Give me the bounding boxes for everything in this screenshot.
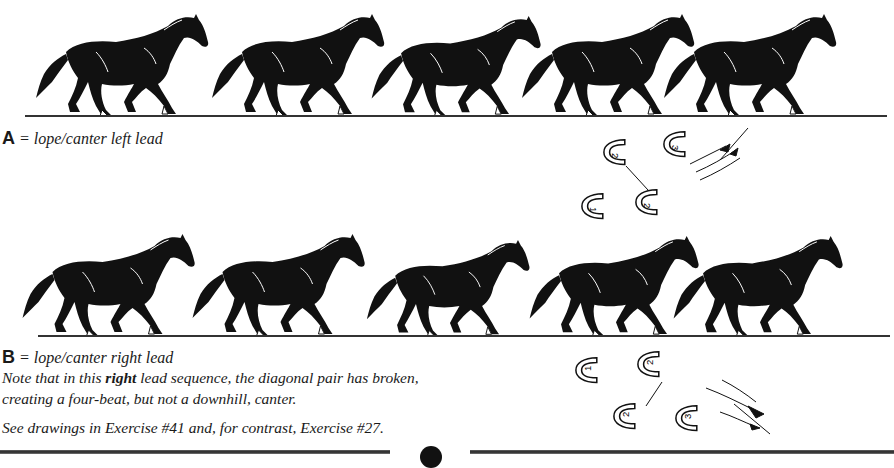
horseshoe-icon: 3 (676, 406, 697, 431)
svg-text:3: 3 (682, 414, 693, 419)
horse-sequence-a (0, 8, 894, 118)
horse-figure-a1 (36, 12, 211, 120)
bottom-rule-left (0, 450, 390, 454)
caption-a: A = lope/canter left lead (2, 128, 163, 149)
horse-figure-a2 (212, 12, 387, 120)
caption-b: B = lope/canter right lead (2, 347, 173, 368)
horseshoe-icon: 2 (604, 140, 625, 165)
svg-text:3: 3 (670, 145, 681, 150)
svg-text:2: 2 (620, 412, 631, 417)
svg-text:1: 1 (588, 207, 599, 212)
svg-text:2: 2 (610, 153, 621, 158)
ground-line-a (25, 115, 887, 117)
hoof-diagram-a: 2 3 1 2 (570, 124, 770, 224)
horseshoe-icon: 2 (638, 352, 659, 377)
horseshoe-icon: 2 (636, 190, 657, 215)
svg-text:1: 1 (582, 366, 593, 371)
caption-b-text: lope/canter right lead (34, 349, 174, 366)
svg-text:2: 2 (644, 360, 655, 365)
see-also-text: See drawings in Exercise #41 and, for co… (2, 417, 384, 438)
hoof-diagram-b: 1 2 2 3 (570, 348, 800, 448)
note-paragraph: Note that in this right lead sequence, t… (2, 367, 419, 409)
horse-figure-b2 (190, 232, 370, 340)
horseshoe-icon: 3 (664, 132, 685, 157)
caption-a-text: lope/canter left lead (34, 130, 163, 147)
horse-figure-b3 (362, 238, 537, 340)
label-letter-a: A (2, 128, 15, 148)
horseshoe-icon: 2 (614, 404, 635, 429)
bottom-rule-right (470, 450, 894, 454)
horse-sequence-b (0, 228, 894, 338)
horse-figure-b5 (672, 234, 847, 340)
motion-arrows-icon (706, 380, 770, 434)
horse-figure-b1 (20, 232, 200, 340)
motion-arrows-icon (690, 128, 748, 180)
page-ornament-dot (420, 446, 442, 468)
horse-figure-a3 (370, 14, 545, 120)
label-letter-b: B (2, 347, 15, 367)
ground-line-b (38, 335, 890, 337)
horseshoe-icon: 1 (576, 358, 597, 383)
horseshoe-icon: 1 (582, 194, 603, 219)
svg-text:2: 2 (642, 203, 653, 208)
horse-figure-a5 (664, 12, 839, 120)
emphasis-right: right (105, 369, 136, 386)
